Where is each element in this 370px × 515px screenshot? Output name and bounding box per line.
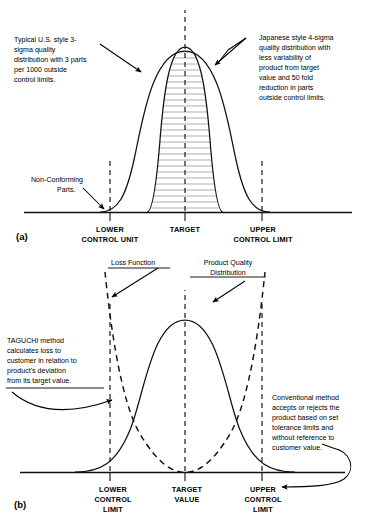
jp-callout-line-4: product from target — [259, 64, 319, 72]
non-conforming-line-2: Parts. — [57, 186, 76, 194]
panel-b: Loss Function Product Quality Distributi… — [6, 259, 351, 514]
panel-a-axis-labels: LOWER CONTROL UNIT TARGET UPPER CONTROL … — [82, 225, 293, 244]
jp-callout-line-3: less variability of — [259, 54, 311, 62]
us-callout-line-1: Typical U.S. style 3- — [14, 36, 77, 44]
jp-callout-line-7: outside control limits. — [259, 94, 325, 102]
us-style-callout: Typical U.S. style 3- sigma quality dist… — [14, 36, 87, 84]
taguchi-callout-leader-arrow — [12, 392, 112, 410]
conventional-line-2: accepts or rejects the — [272, 404, 339, 412]
us-callout-leader-arrow — [100, 44, 141, 72]
taguchi-method-callout: TAGUCHI method calculates loss to custom… — [7, 337, 77, 385]
taguchi-line-4: product's deviation — [7, 367, 66, 375]
taguchi-line-1: TAGUCHI method — [7, 337, 64, 345]
jp-callout-line-6: reduction in parts — [259, 84, 314, 92]
panel-b-target-line-2: VALUE — [175, 495, 200, 504]
panel-b-axis-labels: LOWER CONTROL LIMIT TARGET VALUE UPPER C… — [94, 485, 282, 514]
pqd-label-line-1: Product Quality — [204, 259, 253, 267]
conventional-callout-leader-tail — [322, 444, 333, 448]
taguchi-line-2: calculates loss to — [7, 347, 61, 355]
conventional-line-3: product based on set — [272, 414, 338, 422]
jp-callout-line-2: quality distribution with — [259, 44, 330, 52]
panel-b-tag: (b) — [14, 499, 26, 510]
jp-callout-line-1: Japanese style 4-sigma — [259, 34, 334, 42]
conventional-method-callout: Conventional method accepts or rejects t… — [271, 394, 339, 452]
us-callout-line-2: sigma quality — [14, 46, 56, 54]
panel-b-lcl-line-1: LOWER — [99, 485, 127, 494]
conventional-line-4: tolerance limits and — [272, 424, 333, 432]
loss-function-label-text: Loss Function — [111, 259, 155, 267]
japanese-curve-hatch-fill — [140, 52, 232, 208]
non-conforming-line-1: Non-Conforming — [31, 176, 83, 184]
loss-function-leader-arrow — [112, 268, 158, 297]
us-callout-line-3: distribution with 3 parts — [14, 56, 87, 64]
panel-a-tag: (a) — [16, 231, 28, 242]
jp-callout-line-5: value and 50 fold — [259, 74, 313, 82]
panel-a-lcl-label-line-2: CONTROL UNIT — [82, 235, 139, 244]
japanese-style-callout: Japanese style 4-sigma quality distribut… — [259, 34, 334, 102]
panel-a-target-label: TARGET — [170, 225, 201, 234]
panel-a-ucl-label-line-1: UPPER — [250, 225, 276, 234]
pqd-label-line-2: Distribution — [210, 269, 246, 277]
taguchi-quality-figure: Typical U.S. style 3- sigma quality dist… — [0, 0, 370, 515]
product-quality-distribution-label: Product Quality Distribution — [204, 259, 253, 277]
non-conforming-callout: Non-Conforming Parts. — [31, 176, 83, 194]
figure-svg: Typical U.S. style 3- sigma quality dist… — [0, 0, 370, 515]
panel-a-ucl-label-line-2: CONTROL LIMIT — [234, 235, 293, 244]
panel-a-lcl-label-line-1: LOWER — [96, 225, 124, 234]
panel-b-lcl-line-3: LIMIT — [103, 505, 123, 514]
us-callout-line-5: control limits. — [14, 76, 55, 84]
panel-b-ucl-line-1: UPPER — [250, 485, 276, 494]
panel-b-target-line-1: TARGET — [172, 485, 203, 494]
panel-b-ucl-line-2: CONTROL — [244, 495, 282, 504]
conventional-line-5: without reference to — [271, 434, 334, 442]
us-callout-line-4: per 1000 outside — [14, 66, 67, 74]
taguchi-line-3: customer in relation to — [7, 357, 77, 365]
product-quality-leader-arrow — [213, 281, 245, 302]
conventional-line-1: Conventional method — [272, 394, 339, 402]
panel-b-lcl-line-2: CONTROL — [94, 495, 132, 504]
loss-function-label: Loss Function — [111, 259, 155, 267]
conventional-line-6: customer value. — [272, 444, 322, 452]
non-conforming-leader-arrow — [83, 188, 104, 209]
taguchi-line-5: from its target value. — [7, 377, 71, 385]
conventional-callout-leader-hook — [282, 448, 351, 487]
panel-b-ucl-line-3: LIMIT — [253, 505, 273, 514]
panel-a: Typical U.S. style 3- sigma quality dist… — [14, 10, 352, 244]
